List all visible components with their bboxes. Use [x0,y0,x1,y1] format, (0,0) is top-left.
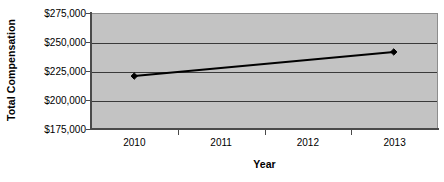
y-axis-tick-label: $250,000 [24,37,86,48]
y-axis-tick-mark [86,100,91,101]
y-axis-tick-label: $275,000 [24,8,86,19]
x-axis-tick-mark [351,130,352,135]
y-axis-tick-label: $200,000 [24,95,86,106]
data-point-marker [391,49,397,55]
x-axis-tick-mark [265,130,266,135]
x-axis-title: Year [91,158,438,170]
x-axis-tick-label: 2011 [186,137,256,149]
x-axis-tick-label: 2012 [273,137,343,149]
x-axis-tick-mark [178,130,179,135]
series-line [134,52,394,76]
x-axis-tick-label: 2013 [360,137,430,149]
y-axis-title: Total Compensation [0,0,22,140]
plot-area [91,13,438,129]
y-axis-title-label: Total Compensation [5,19,17,121]
x-axis-tick-label: 2010 [99,137,169,149]
series-layer [91,14,437,129]
data-point-marker [131,73,137,79]
y-axis-tick-label: $175,000 [24,124,86,135]
y-axis-tick-mark [86,129,91,130]
y-axis-tick-mark [86,42,91,43]
y-axis-tick-label: $225,000 [24,66,86,77]
line-chart: Total Compensation $275,000$250,000$225,… [0,0,444,182]
y-axis-tick-mark [86,13,91,14]
y-axis-tick-labels: $275,000$250,000$225,000$200,000$175,000 [24,10,86,134]
x-axis-tick-labels: 2010201120122013 [91,137,438,151]
y-axis-tick-mark [86,71,91,72]
